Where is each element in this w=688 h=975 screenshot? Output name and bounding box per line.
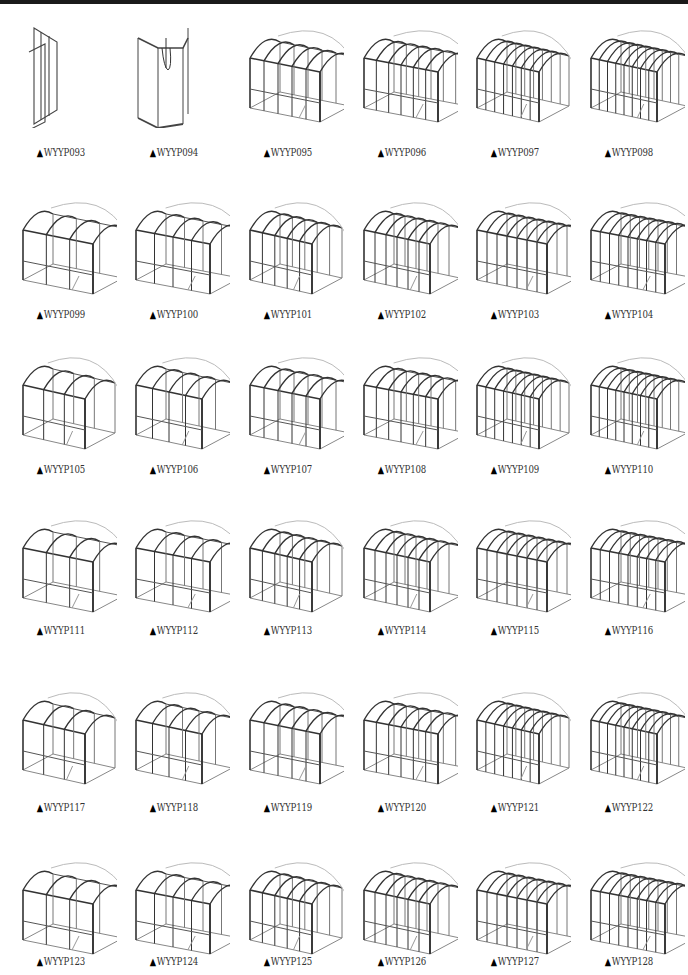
product-drawing <box>5 508 117 618</box>
product-drawing <box>118 190 230 300</box>
product-caption: ▲WYYP113 <box>242 624 334 636</box>
product-code: WYYP114 <box>385 624 426 636</box>
product-code: WYYP126 <box>385 955 426 967</box>
product-caption: ▲WYYP094 <box>128 146 220 158</box>
product-code: WYYP093 <box>44 146 85 158</box>
product-code: WYYP113 <box>271 624 312 636</box>
triangle-marker-icon: ▲ <box>491 464 497 475</box>
product-code: WYYP128 <box>612 955 653 967</box>
product-drawing <box>459 345 571 455</box>
product-code: WYYP110 <box>612 463 653 475</box>
product-caption: ▲WYYP104 <box>583 308 675 320</box>
product-caption: ▲WYYP117 <box>15 801 107 813</box>
product-caption: ▲WYYP106 <box>128 463 220 475</box>
product-drawing <box>459 508 571 618</box>
product-caption: ▲WYYP107 <box>242 463 334 475</box>
product-code: WYYP096 <box>385 146 426 158</box>
triangle-marker-icon: ▲ <box>37 464 43 475</box>
product-drawing <box>232 190 344 300</box>
product-caption: ▲WYYP093 <box>15 146 107 158</box>
product-drawing <box>5 680 117 790</box>
product-caption: ▲WYYP099 <box>15 308 107 320</box>
product-code: WYYP099 <box>44 308 85 320</box>
triangle-marker-icon: ▲ <box>264 464 270 475</box>
product-code: WYYP095 <box>271 146 312 158</box>
triangle-marker-icon: ▲ <box>150 464 156 475</box>
triangle-marker-icon: ▲ <box>378 464 384 475</box>
triangle-marker-icon: ▲ <box>264 956 270 967</box>
product-code: WYYP107 <box>271 463 312 475</box>
product-drawing <box>573 850 685 960</box>
triangle-marker-icon: ▲ <box>378 309 384 320</box>
product-drawing <box>118 680 230 790</box>
product-caption: ▲WYYP097 <box>469 146 561 158</box>
triangle-marker-icon: ▲ <box>491 309 497 320</box>
product-caption: ▲WYYP115 <box>469 624 561 636</box>
product-drawing <box>346 18 458 128</box>
triangle-marker-icon: ▲ <box>150 309 156 320</box>
product-drawing <box>459 680 571 790</box>
product-code: WYYP102 <box>385 308 426 320</box>
product-code: WYYP124 <box>157 955 198 967</box>
product-code: WYYP116 <box>612 624 653 636</box>
product-drawing <box>573 345 685 455</box>
product-code: WYYP119 <box>271 801 312 813</box>
product-caption: ▲WYYP103 <box>469 308 561 320</box>
triangle-marker-icon: ▲ <box>150 147 156 158</box>
triangle-marker-icon: ▲ <box>37 309 43 320</box>
product-drawing <box>5 190 117 300</box>
product-drawing <box>232 18 344 128</box>
top-border-rule <box>0 0 688 4</box>
product-caption: ▲WYYP108 <box>356 463 448 475</box>
product-drawing <box>232 850 344 960</box>
product-drawing <box>346 190 458 300</box>
product-code: WYYP127 <box>498 955 539 967</box>
product-drawing <box>232 508 344 618</box>
product-caption: ▲WYYP109 <box>469 463 561 475</box>
product-caption: ▲WYYP121 <box>469 801 561 813</box>
product-caption: ▲WYYP110 <box>583 463 675 475</box>
product-caption: ▲WYYP111 <box>15 624 107 636</box>
triangle-marker-icon: ▲ <box>605 802 611 813</box>
product-caption: ▲WYYP098 <box>583 146 675 158</box>
product-drawing <box>346 680 458 790</box>
triangle-marker-icon: ▲ <box>605 956 611 967</box>
triangle-marker-icon: ▲ <box>37 625 43 636</box>
product-caption: ▲WYYP105 <box>15 463 107 475</box>
product-caption: ▲WYYP124 <box>128 955 220 967</box>
product-drawing <box>573 190 685 300</box>
product-code: WYYP094 <box>157 146 198 158</box>
product-drawing <box>573 18 685 128</box>
triangle-marker-icon: ▲ <box>150 625 156 636</box>
triangle-marker-icon: ▲ <box>491 802 497 813</box>
product-code: WYYP121 <box>498 801 539 813</box>
product-code: WYYP103 <box>498 308 539 320</box>
triangle-marker-icon: ▲ <box>491 147 497 158</box>
product-drawing <box>573 680 685 790</box>
product-caption: ▲WYYP119 <box>242 801 334 813</box>
product-drawing <box>5 345 117 455</box>
product-caption: ▲WYYP096 <box>356 146 448 158</box>
product-drawing <box>118 850 230 960</box>
triangle-marker-icon: ▲ <box>37 147 43 158</box>
triangle-marker-icon: ▲ <box>264 802 270 813</box>
product-drawing <box>5 18 117 128</box>
product-caption: ▲WYYP118 <box>128 801 220 813</box>
triangle-marker-icon: ▲ <box>378 956 384 967</box>
triangle-marker-icon: ▲ <box>264 625 270 636</box>
triangle-marker-icon: ▲ <box>264 147 270 158</box>
product-caption: ▲WYYP095 <box>242 146 334 158</box>
product-code: WYYP122 <box>612 801 653 813</box>
product-drawing <box>118 508 230 618</box>
triangle-marker-icon: ▲ <box>605 625 611 636</box>
product-code: WYYP108 <box>385 463 426 475</box>
product-caption: ▲WYYP126 <box>356 955 448 967</box>
triangle-marker-icon: ▲ <box>150 802 156 813</box>
triangle-marker-icon: ▲ <box>378 147 384 158</box>
product-caption: ▲WYYP116 <box>583 624 675 636</box>
product-drawing <box>459 18 571 128</box>
product-code: WYYP118 <box>157 801 198 813</box>
triangle-marker-icon: ▲ <box>605 309 611 320</box>
product-code: WYYP111 <box>44 624 85 636</box>
product-code: WYYP104 <box>612 308 653 320</box>
